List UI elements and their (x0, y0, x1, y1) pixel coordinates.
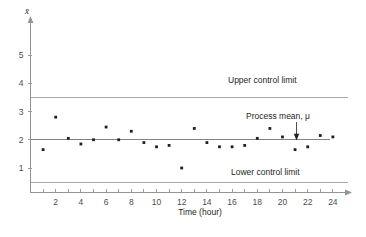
data-point (142, 141, 145, 144)
process-mean-label: Process mean, μ (246, 111, 310, 121)
y-tick-label: 4 (19, 78, 24, 88)
y-tick-label: 2 (19, 135, 24, 145)
data-point (155, 145, 158, 148)
x-tick-label: 6 (104, 197, 109, 207)
data-point (105, 126, 108, 129)
x-tick-label: 10 (152, 197, 162, 207)
data-point (294, 148, 297, 151)
y-tick-label: 3 (19, 107, 24, 117)
data-point (92, 138, 95, 141)
x-tick-label: 12 (177, 197, 187, 207)
data-point (168, 144, 171, 147)
data-point (331, 136, 334, 139)
data-point (218, 145, 221, 148)
x-tick-label: 20 (278, 197, 288, 207)
y-tick-label: 1 (19, 163, 24, 173)
x-tick-label: 8 (129, 197, 134, 207)
x-tick-label: 2 (53, 197, 58, 207)
data-point (306, 145, 309, 148)
x-tick-label: 16 (227, 197, 237, 207)
data-point (54, 116, 57, 119)
y-tick-label: 5 (19, 50, 24, 60)
upper-control-limit-label: Upper control limit (228, 75, 297, 85)
data-point-group (42, 116, 335, 170)
data-point (80, 143, 83, 146)
data-point (256, 137, 259, 140)
data-point (319, 134, 322, 137)
x-tick-label: 22 (303, 197, 313, 207)
x-axis-title: Time (hour) (178, 207, 222, 217)
data-point (130, 130, 133, 133)
data-point (268, 127, 271, 130)
x-tick-group: 24681012141618202224 (43, 189, 338, 207)
lower-control-limit-label: Lower control limit (231, 167, 300, 177)
data-point (205, 141, 208, 144)
x-tick-label: 14 (202, 197, 212, 207)
control-chart-svg: 12345 24681012141618202224 x̄ Time (hour… (0, 0, 366, 237)
y-axis-arrowhead (28, 16, 34, 23)
x-tick-label: 18 (253, 197, 263, 207)
process-mean-pointer (294, 122, 299, 141)
data-point (180, 167, 183, 170)
axes-group (28, 16, 352, 195)
y-axis-label: x̄ (24, 6, 30, 16)
x-axis-arrowhead (345, 190, 352, 196)
x-tick-label: 4 (79, 197, 84, 207)
data-point (231, 145, 234, 148)
data-point (67, 137, 70, 140)
data-point (42, 148, 45, 151)
y-tick-group: 12345 (19, 50, 32, 173)
data-point (117, 138, 120, 141)
x-tick-label: 24 (328, 197, 338, 207)
data-point (193, 127, 196, 130)
control-chart-figure: 12345 24681012141618202224 x̄ Time (hour… (0, 0, 366, 237)
data-point (243, 144, 246, 147)
data-point (281, 136, 284, 139)
